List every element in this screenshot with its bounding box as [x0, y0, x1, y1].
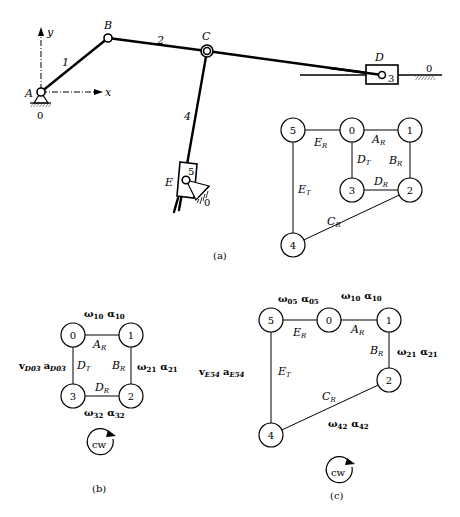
- link-1: [41, 38, 108, 92]
- graph-node-3: 3: [61, 384, 85, 408]
- edge-label-DR: DR: [94, 381, 110, 395]
- joint-B: [104, 34, 112, 42]
- caption-c: (c): [330, 490, 344, 501]
- panel-a-graph: 5 0 1 3 2 4 ER AR DT BR DR ET CR: [281, 118, 422, 257]
- edge-label-ER: ER: [313, 136, 328, 150]
- svg-text:0: 0: [70, 330, 76, 341]
- svg-text:1: 1: [128, 330, 134, 341]
- link-4-tail: [174, 198, 178, 212]
- slider-label-5: 5: [188, 166, 194, 177]
- edge-label-ER: ER: [292, 326, 307, 340]
- svg-text:4: 4: [268, 430, 274, 441]
- y-axis-label: y: [46, 26, 54, 39]
- edge-label-ET: ET: [277, 365, 292, 379]
- loop-direction-b: cw: [92, 439, 107, 450]
- ground-label-D: 0: [426, 63, 432, 74]
- graph-node-1: 1: [119, 323, 143, 347]
- caption-b: (b): [92, 483, 106, 494]
- slider-E: 5 0 E: [164, 162, 210, 212]
- caption-a: (a): [213, 250, 227, 261]
- svg-text:2: 2: [386, 375, 392, 386]
- edge-label-AR: AR: [92, 338, 107, 352]
- graph-node-2: 2: [398, 178, 422, 202]
- link-2-label: 2: [156, 34, 164, 47]
- graph-node-3: 3: [340, 178, 364, 202]
- graph-node-1: 1: [377, 308, 401, 332]
- svg-text:3: 3: [349, 185, 355, 196]
- label-omega05-alpha05: ω05α05: [278, 293, 319, 306]
- label-omega21-alpha21: ω21α21: [137, 361, 178, 374]
- label-omega32-alpha32: ω32α32: [84, 407, 125, 420]
- point-label-C: C: [202, 30, 211, 43]
- ground-label-A: 0: [37, 110, 43, 121]
- svg-text:1: 1: [386, 315, 392, 326]
- edge-label-CR: CR: [322, 390, 336, 404]
- point-label-E: E: [164, 176, 173, 189]
- x-axis-label: x: [105, 86, 112, 99]
- edge-label-DT: DT: [76, 359, 92, 373]
- edge-label-BR: BR: [369, 344, 384, 358]
- joint-D: [379, 72, 386, 79]
- link-1-label: 1: [62, 56, 69, 69]
- svg-text:2: 2: [128, 391, 134, 402]
- svg-text:0: 0: [326, 315, 332, 326]
- label-omega42-alpha42: ω42α42: [328, 418, 369, 431]
- edge-label-AR: AR: [371, 133, 386, 147]
- graph-node-0: 0: [340, 118, 364, 142]
- svg-text:5: 5: [290, 125, 296, 136]
- ground-label-E: 0: [204, 197, 210, 208]
- label-omega21-alpha21: ω21α21: [397, 346, 438, 359]
- graph-node-5: 5: [259, 308, 283, 332]
- graph-node-0: 0: [317, 308, 341, 332]
- graph-node-2: 2: [119, 384, 143, 408]
- joint-E: [182, 176, 190, 184]
- point-label-A: A: [24, 87, 33, 100]
- panel-b-graph: 0 1 3 2 AR DT BR DR ω10α10 ω21α21 ω32α32…: [18, 308, 178, 455]
- ground-hatch-D: [415, 76, 435, 80]
- svg-text:3: 3: [70, 391, 76, 402]
- svg-text:2: 2: [407, 185, 413, 196]
- graph-node-0: 0: [61, 323, 85, 347]
- x-axis-arrow-icon: [94, 89, 103, 95]
- graph-node-1: 1: [398, 118, 422, 142]
- edge-label-AR: AR: [350, 323, 365, 337]
- edge-label-DR: DR: [373, 175, 389, 189]
- svg-text:0: 0: [349, 125, 355, 136]
- svg-text:1: 1: [407, 125, 413, 136]
- edge-label-BR: BR: [111, 359, 126, 373]
- link-4-label: 4: [183, 110, 191, 123]
- graph-node-4: 4: [259, 423, 283, 447]
- joint-C-inner: [204, 48, 211, 55]
- slider-label-3: 3: [388, 73, 394, 84]
- graph-node-2: 2: [377, 368, 401, 392]
- point-label-D: D: [374, 51, 384, 64]
- label-vE54-aE54: vE54aE54: [198, 366, 245, 379]
- svg-text:4: 4: [290, 240, 296, 251]
- label-omega10-alpha10: ω10α10: [84, 308, 125, 321]
- edge-label-BR: BR: [388, 154, 403, 168]
- label-omega10-alpha10: ω10α10: [341, 290, 382, 303]
- edge-label-ET: ET: [297, 183, 312, 197]
- point-label-B: B: [103, 19, 112, 32]
- figure-canvas: y x 0 1 2 4 A B C 0: [0, 0, 460, 517]
- graph-node-5: 5: [281, 118, 305, 142]
- graph-node-4: 4: [281, 233, 305, 257]
- mechanism-figure: y x 0 1 2 4 A B C 0: [0, 0, 460, 517]
- edge-label-CR: CR: [327, 215, 341, 229]
- panel-c-graph: 5 0 1 2 4 ER AR BR CR ET ω05α05 ω10α10 ω…: [198, 290, 438, 483]
- y-axis-arrow-icon: [38, 27, 44, 36]
- svg-text:5: 5: [268, 315, 274, 326]
- label-vD03-aD03: vD03aD03: [18, 360, 66, 373]
- loop-direction-c: cw: [331, 467, 346, 478]
- joint-A: [37, 88, 45, 96]
- edge-label-DT: DT: [356, 153, 372, 167]
